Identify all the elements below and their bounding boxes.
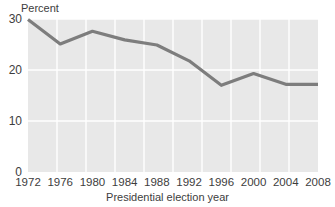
x-axis-title: Presidential election year	[0, 191, 335, 203]
y-tick-label: 30	[0, 13, 22, 25]
line-chart: Percent 3020100 197219761980198419881992…	[0, 0, 335, 207]
x-tick-label: 1996	[209, 176, 235, 188]
x-tick-label: 1980	[80, 176, 106, 188]
y-tick-label: 10	[0, 115, 22, 127]
x-tick-label: 1992	[176, 176, 202, 188]
x-tick-label: 2008	[305, 176, 331, 188]
x-tick-label: 1972	[15, 176, 41, 188]
y-tick-label: 20	[0, 64, 22, 76]
x-tick-label: 2000	[241, 176, 267, 188]
x-tick-label: 1984	[112, 176, 138, 188]
x-tick-label: 1976	[47, 176, 73, 188]
x-tick-label: 2004	[273, 176, 299, 188]
x-tick-label: 1988	[144, 176, 170, 188]
